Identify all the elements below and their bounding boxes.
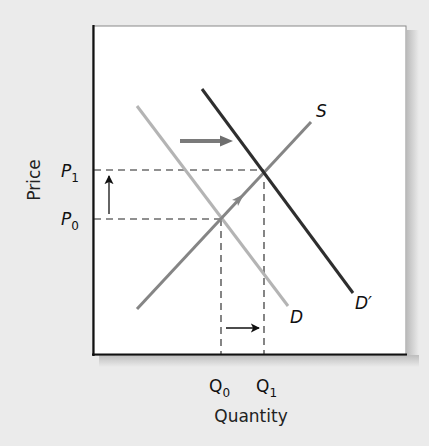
y-axis-title: Price	[24, 159, 44, 200]
supply-label: S	[316, 101, 327, 121]
demand-shifted-label: D′	[355, 293, 372, 313]
q1-tick-label: Q1	[256, 376, 277, 400]
demand-label: D	[290, 307, 303, 327]
q0-main: Q	[209, 376, 222, 396]
q1-sub: 1	[269, 386, 277, 400]
p0-tick-label: P0	[61, 209, 79, 233]
frame-shadow-right	[407, 30, 419, 362]
q0-sub: 0	[222, 386, 230, 400]
x-axis-title: Quantity	[214, 406, 287, 426]
supply-demand-figure: S D D′ P1 P0 Q0 Q1 Price Quantity	[0, 0, 429, 446]
p1-sub: 1	[71, 171, 79, 185]
q1-main: Q	[256, 376, 269, 396]
p0-sub: 0	[71, 219, 79, 233]
p1-tick-label: P1	[61, 161, 79, 185]
q0-tick-label: Q0	[209, 376, 230, 400]
frame-shadow-bottom	[99, 355, 419, 367]
chart-canvas: S D D′ P1 P0 Q0 Q1 Price Quantity	[0, 0, 429, 446]
